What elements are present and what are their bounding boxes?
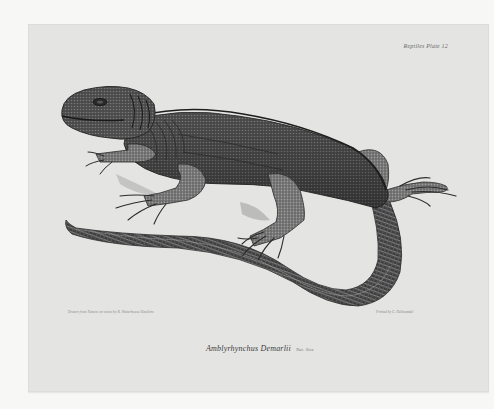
lizard-illustration [28, 24, 489, 392]
lizard-tail [66, 192, 402, 306]
species-caption: Amblyrhynchus DemarliiNat. Size [206, 344, 314, 353]
lizard-head [62, 86, 155, 139]
shadow-front-leg [116, 174, 158, 194]
shadow-hind-leg [240, 202, 270, 220]
scale-note: Nat. Size [296, 347, 314, 352]
printer-credit: Printed by C. Hullmandel [376, 310, 413, 314]
artist-credit: Drawn from Nature on stone by B. Waterho… [68, 310, 154, 314]
lithograph-plate: Reptiles Plate 12 Drawn from Nature on s… [28, 24, 489, 392]
plate-edge-shadow [28, 391, 489, 394]
plate-number: Reptiles Plate 12 [404, 43, 448, 49]
species-name: Amblyrhynchus Demarlii [206, 344, 291, 353]
